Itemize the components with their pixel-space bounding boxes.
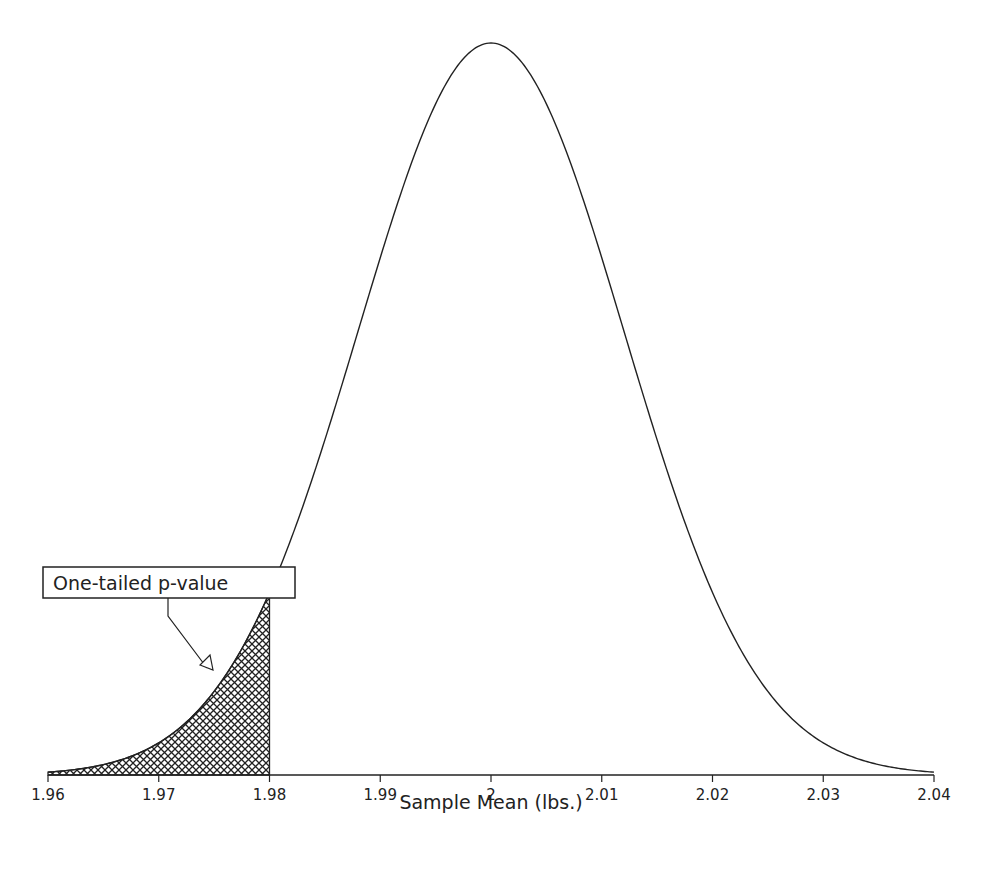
x-axis-title: Sample Mean (lbs.) — [399, 791, 582, 813]
x-tick-label: 1.98 — [253, 786, 286, 804]
normal-curve — [48, 43, 934, 772]
callout-arrow-line — [168, 598, 207, 668]
x-tick-label: 1.97 — [142, 786, 175, 804]
crosshatch-area — [48, 592, 270, 775]
p-value-shaded-region — [48, 592, 270, 775]
x-tick-label: 1.99 — [364, 786, 397, 804]
callout-arrowhead-icon — [200, 655, 213, 670]
x-tick-label: 2.01 — [585, 786, 618, 804]
x-tick-label: 2.04 — [917, 786, 950, 804]
curve-line — [48, 43, 934, 772]
x-tick-label: 1.96 — [31, 786, 64, 804]
callout-label: One-tailed p-value — [53, 572, 228, 594]
x-tick-label: 2.02 — [696, 786, 729, 804]
x-tick-label: 2.03 — [807, 786, 840, 804]
normal-distribution-chart: 1.961.971.981.9922.012.022.032.04 One-ta… — [0, 0, 988, 879]
